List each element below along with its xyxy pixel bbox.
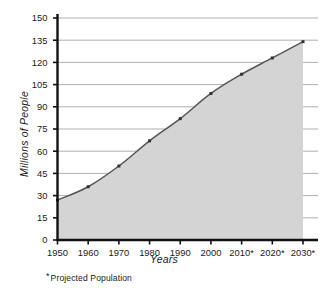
footnote: *Projected Population	[46, 271, 132, 283]
data-point-marker-2020	[271, 56, 274, 59]
y-tick-label-0: 0	[14, 235, 48, 244]
y-tick-label-120: 120	[14, 58, 48, 67]
y-tick-label-105: 105	[14, 80, 48, 89]
y-tick-label-90: 90	[14, 102, 48, 111]
area-fill-shape	[58, 42, 304, 240]
y-tick-label-30: 30	[14, 191, 48, 200]
data-point-marker-2030	[302, 40, 305, 43]
data-point-marker-1970	[117, 165, 120, 168]
area-fill	[58, 42, 304, 240]
y-tick-label-15: 15	[14, 213, 48, 222]
data-point-marker-2010	[240, 73, 243, 76]
data-point-marker-1980	[148, 139, 151, 142]
x-axis-title: Years	[0, 253, 328, 265]
footnote-label: Projected Population	[51, 273, 132, 283]
footnote-asterisk: *	[46, 271, 50, 281]
y-tick-label-75: 75	[14, 124, 48, 133]
y-tick-label-150: 150	[14, 13, 48, 22]
y-tick-label-45: 45	[14, 169, 48, 178]
population-area-chart: Millions of People 015304560759010512013…	[0, 0, 328, 292]
y-tick-label-60: 60	[14, 147, 48, 156]
data-point-marker-1960	[87, 185, 90, 188]
y-tick-label-135: 135	[14, 36, 48, 45]
data-point-marker-2000	[209, 92, 212, 95]
data-point-marker-1990	[179, 117, 182, 120]
